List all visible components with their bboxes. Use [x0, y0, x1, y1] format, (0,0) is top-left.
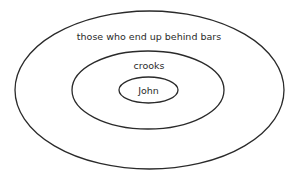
- inner-set-label: John: [137, 85, 159, 96]
- nested-set-diagram: those who end up behind bars crooks John: [0, 0, 300, 177]
- middle-set-label: crooks: [134, 60, 165, 71]
- outer-set-label: those who end up behind bars: [77, 31, 221, 42]
- diagram-canvas: those who end up behind bars crooks John: [0, 0, 300, 177]
